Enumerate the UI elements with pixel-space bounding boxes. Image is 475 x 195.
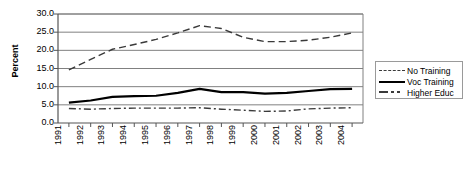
series-line <box>69 108 352 112</box>
series-line <box>69 89 352 103</box>
legend-label: Higher Educ <box>405 88 454 98</box>
legend-swatch-dash-dot-icon <box>379 88 405 98</box>
legend-item: Voc Training <box>379 76 459 87</box>
x-tick-label: 1996 <box>172 128 184 159</box>
x-axis-tick-labels: 1991199219931994199519961997199819992000… <box>58 128 363 188</box>
legend-label: No Training <box>405 66 450 76</box>
legend-swatch-solid-icon <box>379 77 405 87</box>
legend-swatch-dashed-icon <box>379 66 405 76</box>
chart-legend: No TrainingVoc TrainingHigher Educ <box>375 61 463 99</box>
legend-label: Voc Training <box>405 77 454 87</box>
line-chart: Percent 30.025.020.015.010.05.00.0 19911… <box>0 0 475 195</box>
x-tick-label: 2004 <box>346 128 358 159</box>
legend-item: No Training <box>379 65 459 76</box>
x-tick-label: 2001 <box>281 128 293 159</box>
legend-item: Higher Educ <box>379 87 459 98</box>
